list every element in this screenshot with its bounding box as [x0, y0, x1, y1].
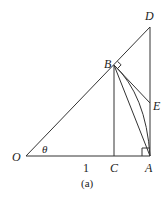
segment-OD	[26, 27, 150, 156]
diagram-canvas: D B E O C A θ 1 (a)	[0, 0, 167, 200]
label-D: D	[144, 9, 154, 23]
label-B: B	[104, 57, 112, 71]
label-O: O	[12, 150, 21, 164]
segment-length-label: 1	[83, 161, 89, 175]
segment-BA	[114, 65, 150, 156]
label-E: E	[152, 99, 161, 113]
angle-theta-label: θ	[42, 143, 48, 155]
right-angle-marker-B	[118, 61, 122, 68]
label-C: C	[110, 161, 119, 175]
label-A: A	[144, 161, 153, 175]
figure-caption: (a)	[81, 177, 94, 190]
